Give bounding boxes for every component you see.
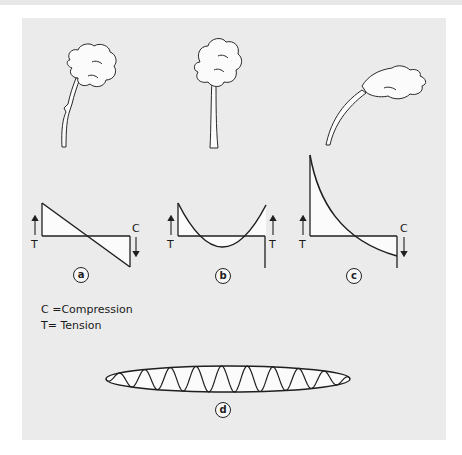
diagram-a-linear — [35, 203, 136, 267]
diagram-c-left-label: T — [299, 239, 306, 250]
panel-label-d: d — [215, 402, 231, 418]
legend-tension: T= Tension — [41, 319, 102, 333]
diagram-c-exponential — [303, 155, 404, 268]
tree-b-illustration — [194, 39, 241, 148]
figure-drawing — [0, 0, 462, 455]
tree-c-illustration — [326, 66, 426, 145]
diagram-d-oscillation — [106, 366, 350, 392]
figure-canvas: T C T T T C a b c d C =Compression T= Te… — [0, 0, 462, 455]
diagram-b-parabolic — [171, 203, 273, 268]
diagram-b-left-label: T — [167, 239, 174, 250]
panel-label-b: b — [215, 268, 231, 284]
panel-label-a: a — [73, 267, 89, 283]
diagram-b-right-label: T — [269, 239, 276, 250]
tree-a-illustration — [62, 44, 116, 147]
panel-label-c: c — [346, 268, 362, 284]
diagram-a-left-label: T — [31, 239, 38, 250]
diagram-a-right-label: C — [132, 223, 140, 234]
legend-compression: C =Compression — [41, 303, 133, 317]
diagram-c-right-label: C — [400, 223, 408, 234]
